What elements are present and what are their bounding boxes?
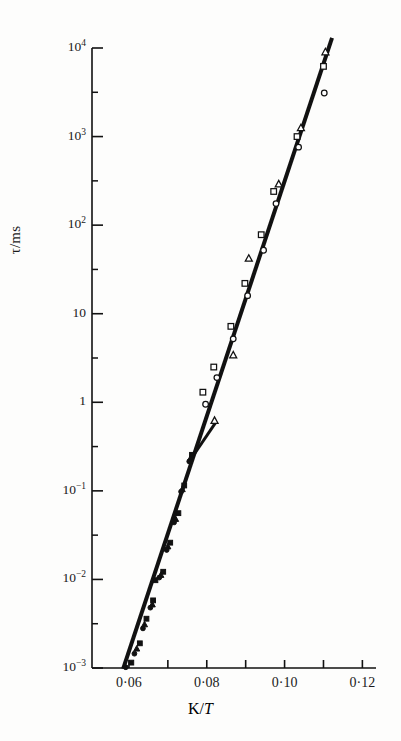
y-axis-tick-label: 10−2 — [62, 570, 86, 586]
series-open-circle — [203, 90, 327, 407]
y-axis-tick-label: 1 — [79, 393, 86, 409]
open-square-marker — [321, 64, 327, 70]
x-axis-tick-label: 0·12 — [332, 675, 392, 691]
open-triangle-marker — [230, 351, 237, 358]
filled-circle-marker — [141, 626, 146, 631]
y-axis-tick-label: 10−3 — [62, 659, 86, 675]
open-circle-marker — [245, 293, 251, 299]
open-square-marker — [200, 389, 206, 395]
open-circle-marker — [273, 201, 279, 207]
open-circle-marker — [230, 336, 236, 342]
open-circle-marker — [296, 144, 302, 150]
chart-plot-area — [0, 0, 401, 741]
filled-triangle-marker — [134, 646, 140, 652]
figure-container: τ/ms K/T 10410310210110−110−210−30·060·0… — [0, 0, 401, 741]
y-axis-tick-label: 102 — [68, 216, 86, 232]
x-axis-tick-label: 0·06 — [99, 675, 159, 691]
main-fit-line — [123, 38, 332, 669]
filled-square-marker — [176, 511, 181, 516]
open-circle-marker — [214, 375, 220, 381]
filled-square-marker — [129, 660, 134, 665]
y-axis-label: τ/ms — [7, 226, 23, 255]
x-axis-label: K/T — [0, 700, 401, 718]
open-square-marker — [242, 281, 248, 287]
x-axis-label-prefix: K/ — [188, 700, 204, 717]
open-triangle-marker — [211, 417, 218, 424]
filled-square-marker — [137, 641, 142, 646]
filled-circle-marker — [179, 489, 184, 494]
filled-circle-marker — [164, 548, 169, 553]
filled-circle-marker — [132, 651, 137, 656]
open-square-marker — [271, 189, 277, 195]
x-axis-label-italic: T — [204, 700, 213, 717]
open-square-marker — [228, 324, 234, 330]
open-triangle-marker — [275, 180, 282, 187]
open-circle-marker — [321, 90, 327, 96]
y-axis-tick-label: 10 — [73, 305, 87, 321]
open-square-marker — [211, 364, 217, 370]
open-triangle-marker — [245, 255, 252, 262]
open-square-marker — [258, 232, 264, 238]
filled-circle-marker — [157, 575, 162, 580]
open-circle-marker — [203, 401, 209, 407]
filled-circle-marker — [187, 459, 192, 464]
filled-square-marker — [144, 616, 149, 621]
y-axis-tick-label: 10−1 — [62, 482, 86, 498]
y-axis-label-wrapper: τ/ms — [6, 180, 24, 300]
open-square-marker — [294, 134, 300, 140]
filled-circle-marker — [148, 605, 153, 610]
open-circle-marker — [261, 247, 267, 253]
x-axis-tick-label: 0·10 — [255, 675, 315, 691]
x-axis-tick-label: 0·08 — [177, 675, 237, 691]
y-axis-tick-label: 103 — [68, 128, 86, 144]
filled-circle-marker — [172, 520, 177, 525]
y-axis-tick-label: 104 — [68, 39, 86, 55]
filled-circle-marker — [123, 665, 128, 670]
